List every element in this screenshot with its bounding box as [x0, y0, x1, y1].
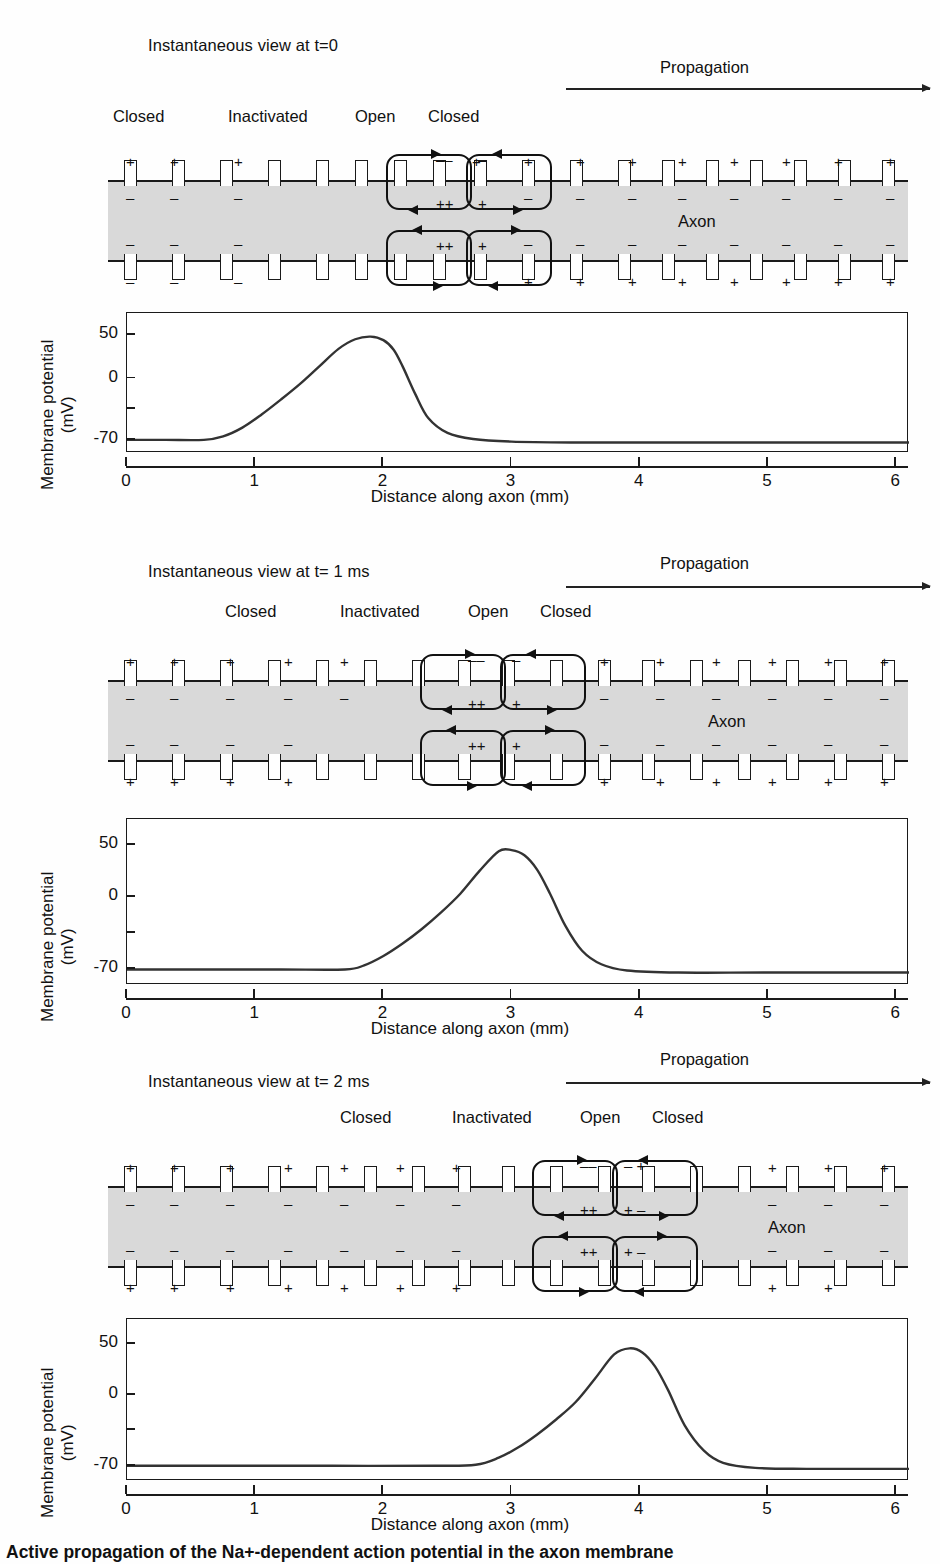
charge-sign-inner-top: –: [886, 190, 894, 205]
charge-sign-outer-bottom: +: [452, 1280, 461, 1295]
panel-t2-state-closed-1: Closed: [340, 1108, 391, 1127]
ion-channel: [690, 660, 703, 686]
charge-sign-inner-bottom: –: [170, 1242, 178, 1257]
y-axis-title-line1: Membrane potential: [38, 1368, 57, 1518]
panel-t0-state-open: Open: [355, 107, 395, 126]
panel-t1: Instantaneous view at t= 1 ms Propagatio…: [0, 540, 940, 1060]
charge-sign-outer-bottom: +: [576, 274, 585, 289]
charge-sign-outer-bottom: +: [340, 1280, 349, 1295]
charge-sign-inner-top: –: [284, 690, 292, 705]
x-axis-tick: [253, 457, 255, 466]
charge-sign-inner-bottom: –: [170, 236, 178, 251]
current-arrow: [554, 1211, 564, 1221]
ion-channel: [364, 754, 377, 780]
charge-sign-inner-bottom: –: [628, 236, 636, 251]
panel-t2-propagation-label: Propagation: [660, 1050, 749, 1069]
charge-sign-outer-bottom: +: [782, 274, 791, 289]
ion-channel: [794, 160, 807, 186]
panel-t2-state-open: Open: [580, 1108, 620, 1127]
ion-channel: [834, 1260, 847, 1286]
loop-charge-sign: + –: [624, 1244, 645, 1259]
ion-channel: [316, 254, 329, 280]
charge-sign-inner-top: –: [768, 1196, 776, 1211]
charge-sign-inner-top: –: [576, 190, 584, 205]
ion-channel: [662, 160, 675, 186]
loop-charge-sign: +: [478, 238, 487, 253]
charge-sign-inner-top: –: [880, 1196, 888, 1211]
membrane-potential-trace: [127, 819, 909, 985]
y-axis-title: Membrane potential(mV): [38, 872, 78, 1022]
ion-channel: [642, 754, 655, 780]
x-axis-tick: [638, 1485, 640, 1494]
ion-channel: [642, 660, 655, 686]
charge-sign-inner-top: –: [234, 190, 242, 205]
charge-sign-outer-bottom: +: [170, 774, 179, 789]
charge-sign-outer-top: +: [782, 154, 791, 169]
ion-channel: [834, 1166, 847, 1192]
current-arrow: [558, 1231, 568, 1241]
charge-sign-inner-bottom: –: [284, 736, 292, 751]
charge-sign-inner-bottom: –: [576, 236, 584, 251]
charge-sign-outer-top: +: [730, 154, 739, 169]
panel-t2-state-inactivated: Inactivated: [452, 1108, 532, 1127]
y-axis-title-line2: (mV): [58, 1368, 78, 1518]
charge-sign-inner-top: –: [628, 190, 636, 205]
charge-sign-outer-bottom: +: [730, 274, 739, 289]
ion-channel: [794, 254, 807, 280]
figure-caption: Active propagation of the Na+-dependent …: [6, 1542, 936, 1564]
charge-sign-outer-top: +: [768, 1160, 777, 1175]
x-axis-line: [126, 1494, 908, 1496]
charge-sign-inner-top: –: [226, 690, 234, 705]
x-axis-title: Distance along axon (mm): [0, 487, 940, 507]
charge-sign-inner-bottom: –: [452, 1242, 460, 1257]
current-arrow: [547, 705, 557, 715]
charge-sign-inner-top: –: [340, 1196, 348, 1211]
charge-sign-inner-bottom: –: [886, 236, 894, 251]
x-axis-tick: [381, 457, 383, 466]
ion-channel: [690, 754, 703, 780]
x-axis-tick: [894, 989, 896, 998]
charge-sign-outer-bottom: +: [284, 1280, 293, 1295]
charge-sign-inner-top: –: [284, 1196, 292, 1211]
x-axis-title: Distance along axon (mm): [0, 1515, 940, 1535]
charge-sign-outer-top: +: [712, 654, 721, 669]
loop-charge-sign: + –: [624, 1202, 645, 1217]
ion-channel: [502, 1166, 515, 1192]
charge-sign-inner-bottom: –: [284, 1242, 292, 1257]
charge-sign-outer-bottom: –: [126, 274, 134, 289]
charge-sign-inner-top: –: [226, 1196, 234, 1211]
charge-sign-inner-bottom: –: [730, 236, 738, 251]
charge-sign-inner-top: –: [824, 690, 832, 705]
charge-sign-outer-bottom: +: [656, 774, 665, 789]
y-axis-tick: [126, 1464, 135, 1466]
ion-channel: [706, 254, 719, 280]
charge-sign-inner-top: –: [600, 690, 608, 705]
charge-sign-outer-top: +: [126, 1160, 135, 1175]
current-loop-lower: [420, 730, 506, 786]
ion-channel: [364, 660, 377, 686]
charge-sign-inner-bottom: –: [170, 736, 178, 751]
figure-page: { "figure": { "caption": "Active propaga…: [0, 0, 940, 1564]
charge-sign-inner-top: –: [834, 190, 842, 205]
x-axis-tick: [766, 457, 768, 466]
loop-charge-sign: –: [478, 276, 486, 291]
charge-sign-inner-bottom: –: [656, 736, 664, 751]
current-arrow: [513, 205, 523, 215]
y-axis-tick: [126, 843, 135, 845]
ion-channel: [706, 160, 719, 186]
panel-t2: Instantaneous view at t= 2 ms Propagatio…: [0, 1050, 940, 1550]
charge-sign-inner-top: –: [126, 190, 134, 205]
charge-sign-outer-bottom: +: [126, 1280, 135, 1295]
charge-sign-outer-bottom: +: [768, 774, 777, 789]
panel-t0-view-title: Instantaneous view at t=0: [148, 36, 338, 55]
charge-sign-outer-top: +: [284, 654, 293, 669]
current-arrow: [442, 705, 452, 715]
y-axis-tick: [126, 967, 135, 969]
charge-sign-inner-top: –: [126, 690, 134, 705]
loop-charge-sign: ++: [468, 738, 486, 753]
charge-sign-outer-top: +: [170, 154, 179, 169]
y-axis-tick: [126, 407, 135, 409]
current-arrow: [522, 781, 532, 791]
x-axis-line: [126, 998, 908, 1000]
panel-t0: Instantaneous view at t=0 Propagation Cl…: [0, 0, 940, 530]
